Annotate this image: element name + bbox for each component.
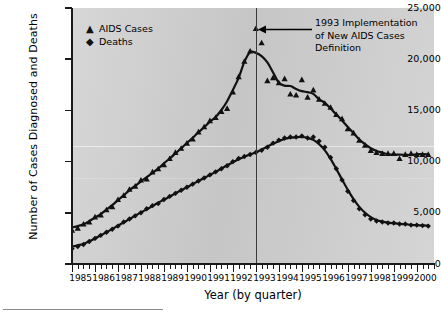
y-axis-tick-label: 25,000 [383, 2, 441, 13]
x-axis-tick [273, 264, 274, 269]
y-axis-tick [65, 263, 72, 265]
data-point-marker [293, 134, 298, 139]
x-axis-tick [152, 264, 153, 269]
x-axis-tick [129, 264, 130, 269]
y-axis-tick-label: 20,000 [383, 53, 441, 64]
x-axis-tick [227, 264, 228, 269]
data-point-marker [414, 222, 419, 227]
x-axis-tick [175, 264, 176, 269]
data-point-marker [420, 223, 425, 228]
x-axis-tick [135, 264, 136, 269]
x-axis-tick [302, 264, 303, 272]
x-axis-tick [371, 264, 372, 272]
x-axis-tick [181, 264, 182, 269]
x-axis-tick [118, 264, 119, 272]
x-axis-tick [377, 264, 378, 269]
x-axis-title: Year (by quarter) [72, 288, 434, 302]
x-axis-tick [170, 264, 171, 269]
x-axis-tick [78, 264, 79, 269]
x-axis-tick [342, 264, 343, 269]
aids-cases-markers [72, 25, 431, 232]
x-axis-tick [72, 264, 73, 272]
x-axis-tick [382, 264, 383, 269]
x-axis-tick [106, 264, 107, 269]
data-point-marker [397, 221, 402, 226]
x-axis-tick [233, 264, 234, 272]
data-point-marker [230, 89, 236, 95]
x-axis-tick [388, 264, 389, 269]
x-axis-tick [267, 264, 268, 269]
legend-item-aids-cases: ▲ AIDS Cases [86, 22, 153, 35]
data-point-marker [391, 220, 396, 225]
y-axis-tick [65, 212, 72, 214]
x-axis-tick [193, 264, 194, 269]
x-axis-tick [319, 264, 320, 269]
y-axis-tick [65, 161, 72, 163]
data-point-marker [287, 91, 293, 97]
x-axis-tick [187, 264, 188, 272]
x-axis-tick [198, 264, 199, 269]
y-axis-line [71, 8, 73, 265]
x-axis-tick [83, 264, 84, 269]
data-point-marker [259, 40, 265, 46]
x-axis-tick [141, 264, 142, 272]
y-axis-tick [65, 58, 72, 60]
data-point-marker [403, 221, 408, 226]
x-axis-tick [434, 264, 435, 269]
y-axis-tick-label: 5,000 [383, 206, 441, 217]
x-axis-tick [313, 264, 314, 269]
legend-item-deaths: ◆ Deaths [86, 35, 153, 48]
x-axis-tick [239, 264, 240, 269]
x-axis-tick [95, 264, 96, 272]
x-axis-line [71, 263, 435, 265]
triangle-marker-icon: ▲ [86, 22, 99, 35]
reference-line-1993 [256, 8, 257, 264]
data-point-marker [408, 222, 413, 227]
x-axis-tick [423, 264, 424, 269]
x-axis-tick [124, 264, 125, 269]
data-point-marker [282, 76, 288, 82]
x-axis-tick [405, 264, 406, 269]
y-axis-tick [65, 110, 72, 112]
y-axis-title: Number of Cases Diagnosed and Deaths [27, 2, 40, 252]
x-axis-tick [221, 264, 222, 269]
x-axis-tick [164, 264, 165, 272]
x-axis-tick [354, 264, 355, 269]
aids-cases-deaths-chart: ▲ AIDS Cases ◆ Deaths 1993 Implementatio… [0, 0, 441, 316]
x-axis-tick [204, 264, 205, 269]
x-axis-tick [359, 264, 360, 269]
x-axis-tick [147, 264, 148, 269]
diamond-marker-icon: ◆ [86, 35, 99, 48]
x-axis-tick [365, 264, 366, 269]
data-point-marker [305, 135, 310, 140]
legend-label-deaths: Deaths [99, 35, 133, 48]
y-axis-tick-label: 10,000 [383, 155, 441, 166]
x-axis-tick [210, 264, 211, 272]
x-axis-tick [89, 264, 90, 269]
data-point-marker [304, 94, 310, 100]
x-axis-tick [290, 264, 291, 269]
x-axis-tick [428, 264, 429, 269]
x-axis-tick [348, 264, 349, 272]
data-point-marker [426, 223, 431, 228]
data-point-marker [299, 77, 305, 83]
data-point-marker [385, 220, 390, 225]
x-axis-tick [158, 264, 159, 269]
legend: ▲ AIDS Cases ◆ Deaths [86, 22, 153, 48]
x-axis-tick [394, 264, 395, 272]
footer-rule [3, 309, 163, 310]
x-axis-tick [331, 264, 332, 269]
x-axis-tick [400, 264, 401, 269]
x-axis-tick [244, 264, 245, 269]
data-point-marker [310, 87, 316, 93]
x-axis-tick [308, 264, 309, 269]
x-axis-tick [296, 264, 297, 269]
data-point-marker [264, 78, 270, 84]
data-point-marker [293, 92, 299, 98]
x-axis-tick [216, 264, 217, 269]
y-axis-tick [65, 7, 72, 9]
x-axis-tick [417, 264, 418, 272]
x-axis-tick [279, 264, 280, 272]
x-axis-tick [325, 264, 326, 272]
x-axis-tick [262, 264, 263, 269]
